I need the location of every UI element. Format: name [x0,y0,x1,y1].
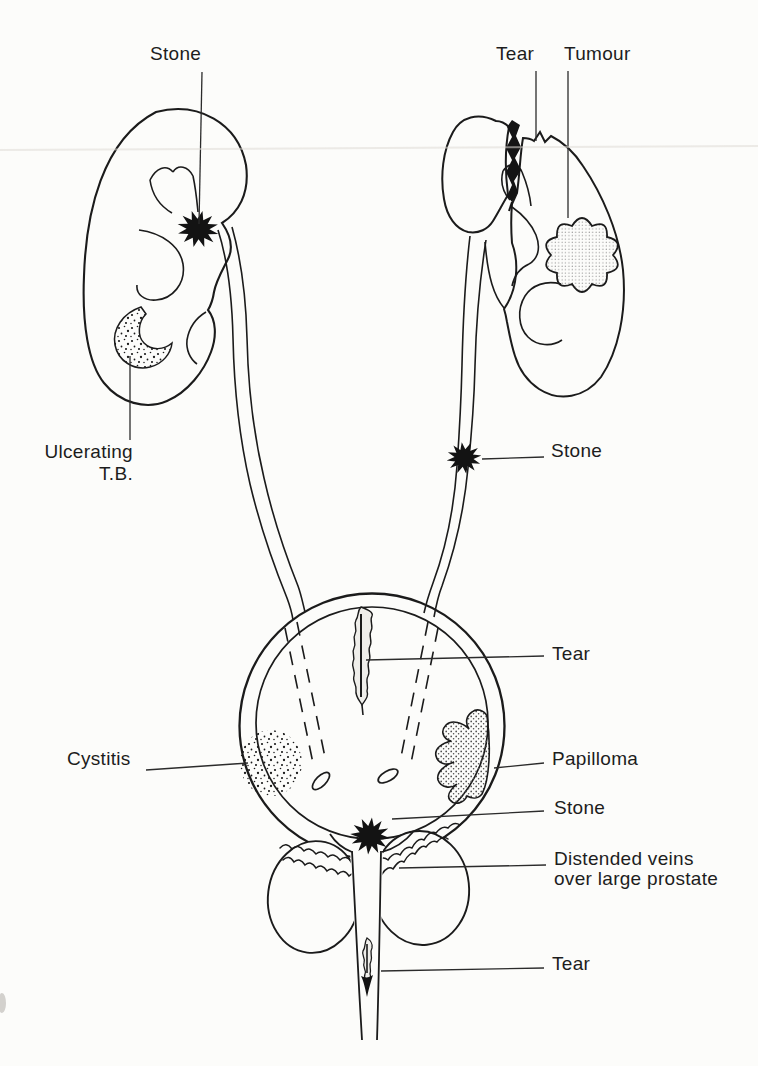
label-papilloma: Papilloma [552,748,638,770]
right-ureter-drawing [424,236,486,617]
label-distended-veins-line1: Distended veins [554,849,718,869]
label-tumour: Tumour [564,43,631,65]
label-tear-bladder: Tear [552,643,590,665]
left-kidney-drawing [84,109,247,405]
stone-mark-right-ureter [444,440,483,477]
left-ureter-drawing [218,227,305,620]
right-kidney-drawing [442,117,624,397]
label-tear-urethra: Tear [552,953,590,975]
label-distended-veins-line2: over large prostate [554,869,718,889]
label-distended-veins: Distended veins over large prostate [554,849,718,889]
label-ulcerating-tb-line2: T.B. [30,463,133,485]
scanned-diagram-page: Stone Tear Tumour Ulcerating T.B. Stone … [0,0,758,1066]
tumour-mark [546,218,618,292]
urinary-tract-diagram [0,0,758,1066]
label-stone-bladder-neck: Stone [554,797,605,819]
label-ulcerating-tb-line1: Ulcerating [30,441,133,463]
label-stone-left-kidney: Stone [150,43,201,65]
label-stone-ureter: Stone [551,440,602,462]
label-ulcerating-tb: Ulcerating T.B. [30,441,133,485]
cystitis-stipple [240,730,302,796]
label-cystitis: Cystitis [67,748,131,770]
label-tear-right-kidney: Tear [496,43,534,65]
